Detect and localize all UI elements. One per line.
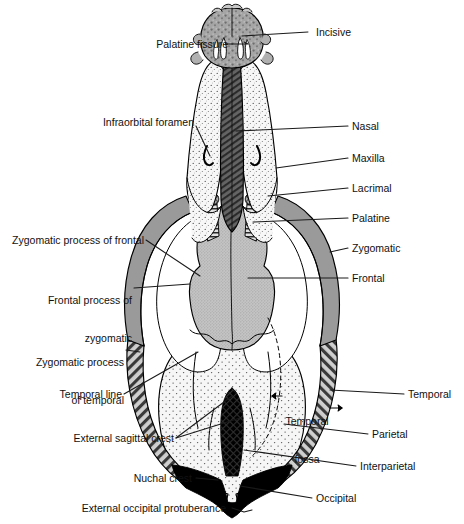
label-temporal-line: Temporal line — [2, 388, 122, 401]
label-lacrimal: Lacrimal — [352, 182, 392, 195]
maxilla-right — [240, 60, 277, 242]
label-nasal: Nasal — [352, 120, 379, 133]
interparietal-sagittal-crest — [221, 388, 244, 476]
label-zygomatic-process-of-frontal: Zygomatic process of frontal — [2, 234, 144, 247]
label-frontal-process-of-zygomatic-line1: Frontal process of — [2, 294, 132, 307]
label-temporal: Temporal — [408, 388, 451, 401]
nasal-bones — [221, 56, 244, 232]
label-palatine-fissure: Palatine fissure — [20, 38, 228, 51]
label-infraorbital-foramen: Infraorbital foramen — [10, 116, 194, 129]
skull-illustration — [0, 0, 464, 524]
label-temporal-fossa: Temporal fossa — [284, 390, 330, 490]
label-zygomatic: Zygomatic — [352, 242, 400, 255]
label-maxilla: Maxilla — [352, 152, 385, 165]
label-palatine: Palatine — [352, 212, 390, 225]
incisive-bone — [191, 4, 273, 68]
skull-dorsal-view-figure: Incisive Palatine fissure Infraorbital f… — [0, 0, 464, 524]
label-occipital: Occipital — [316, 492, 356, 505]
label-temporal-fossa-line1: Temporal — [284, 415, 330, 428]
label-incisive: Incisive — [316, 26, 351, 39]
label-frontal: Frontal — [352, 272, 385, 285]
maxilla-left — [187, 60, 224, 242]
label-zygomatic-process-of-temporal: Zygomatic process of temporal — [2, 331, 124, 431]
label-zygomatic-process-of-temporal-line1: Zygomatic process — [2, 356, 124, 369]
label-external-sagittal-crest: External sagittal crest — [2, 432, 174, 445]
label-interparietal: Interparietal — [360, 460, 415, 473]
label-parietal: Parietal — [372, 428, 408, 441]
label-nuchal-crest: Nuchal crest — [60, 472, 192, 485]
label-temporal-fossa-line2: fossa — [284, 453, 330, 466]
label-external-occipital-protuberance: External occipital protuberance — [20, 502, 226, 515]
